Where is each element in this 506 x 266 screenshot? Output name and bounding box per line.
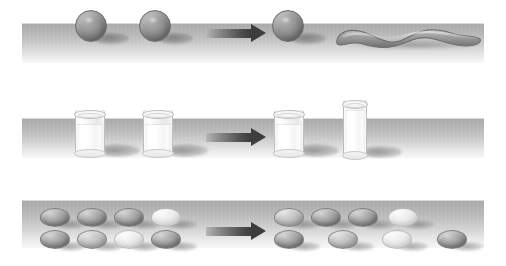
glass-rim-inner [346,103,364,108]
arrow-head [251,24,266,42]
arrow-head [251,128,266,146]
egg-before-bottom-3 [114,230,144,249]
transform-arrow-mass [206,24,266,43]
egg-before-bottom-4 [151,230,181,249]
clay-ball-before-2 [139,10,171,42]
glass-short-before-2 [143,110,173,154]
glass-base [273,149,305,158]
transform-arrow-liquid [206,128,266,147]
glass-rim [142,110,174,119]
egg-after-bottom-4 [437,230,467,249]
specular-highlight [281,16,291,24]
egg-before-bottom-2 [77,230,107,249]
egg-before-top-1 [40,208,70,227]
glass-rim-inner [78,113,102,118]
glass-rim [74,110,106,119]
egg-after-bottom-2 [328,230,358,249]
clay-ball-after [272,10,304,42]
glass-tall-after [343,100,367,156]
egg-after-bottom-3 [382,230,412,249]
transform-arrow-number [206,222,266,241]
clay-snake-after [333,25,483,51]
glass-base [342,151,368,160]
egg-before-bottom-1 [40,230,70,249]
glass-short-before-1 [75,110,105,154]
glass-base [74,149,106,158]
conservation-figure [0,0,506,266]
specular-highlight [148,16,158,24]
glass-rim-inner [277,113,301,118]
egg-after-top-2 [311,208,341,227]
egg-after-top-1 [274,208,304,227]
glass-gloss [348,108,351,130]
egg-after-top-3 [348,208,378,227]
glass-rim [342,100,368,109]
egg-after-bottom-1 [274,230,304,249]
glass-rim [273,110,305,119]
arrow-shaft [206,133,251,142]
egg-before-top-3 [114,208,144,227]
egg-after-top-4 [388,208,418,227]
glass-rim-inner [146,113,170,118]
arrow-head [251,222,266,240]
glass-short-after [274,110,304,154]
glass-base [142,149,174,158]
clay-snake-shape [333,25,483,51]
egg-before-top-2 [77,208,107,227]
specular-highlight [84,16,94,24]
arrow-shaft [206,29,251,38]
egg-before-top-4 [151,208,181,227]
arrow-shaft [206,227,251,236]
clay-ball-before-1 [75,10,107,42]
table-edge [22,200,484,201]
